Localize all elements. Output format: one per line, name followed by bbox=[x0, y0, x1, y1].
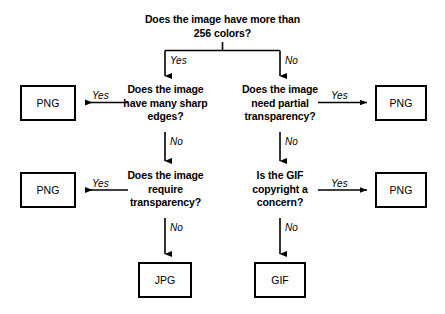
node-png-gif-copyright-yes: PNG bbox=[375, 172, 427, 208]
edge-label-gif-copyright-yes: Yes bbox=[331, 178, 348, 189]
edge-label-root-yes: Yes bbox=[170, 55, 187, 66]
flowchart-connectors bbox=[0, 0, 445, 314]
edge-label-root-no: No bbox=[285, 55, 298, 66]
node-question-require-transparency: Does the image require transparency? bbox=[124, 169, 207, 210]
edge-label-require-transparency-yes: Yes bbox=[92, 178, 109, 189]
edge-label-partial-transparency-no: No bbox=[285, 136, 298, 147]
node-question-gif-copyright: Is the GIF copyright a concern? bbox=[240, 169, 320, 210]
edge-label-sharp-edges-no: No bbox=[170, 136, 183, 147]
node-jpg-result: JPG bbox=[138, 262, 192, 298]
node-png-sharp-edges-yes: PNG bbox=[20, 85, 76, 121]
flowchart-canvas: Does the image have more than 256 colors… bbox=[0, 0, 445, 314]
node-gif-result: GIF bbox=[254, 262, 306, 298]
node-question-sharp-edges: Does the image have many sharp edges? bbox=[122, 83, 209, 124]
node-question-partial-transparency: Does the image need partial transparency… bbox=[236, 83, 324, 124]
edge-label-require-transparency-no: No bbox=[170, 222, 183, 233]
node-root-question: Does the image have more than 256 colors… bbox=[143, 13, 302, 40]
edge-label-sharp-edges-yes: Yes bbox=[92, 90, 109, 101]
node-png-partial-transparency-yes: PNG bbox=[375, 85, 427, 121]
edge-label-gif-copyright-no: No bbox=[285, 222, 298, 233]
edge-label-partial-transparency-yes: Yes bbox=[331, 90, 348, 101]
node-png-require-transparency-yes: PNG bbox=[20, 172, 76, 208]
